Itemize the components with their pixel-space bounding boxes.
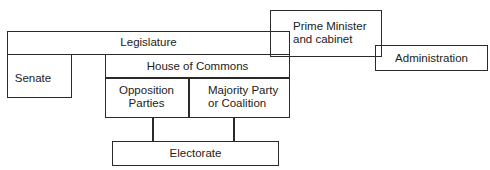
prime-minister-label-2: and cabinet: [293, 33, 352, 46]
administration-label: Administration: [375, 52, 488, 65]
connector-majority-electorate: [233, 118, 235, 142]
party-divider: [188, 77, 190, 118]
majority-label-2: or Coalition: [208, 97, 266, 110]
legislature-label: Legislature: [7, 36, 290, 49]
opposition-label-1: Opposition: [105, 84, 188, 97]
opposition-label-2: Parties: [105, 97, 188, 110]
electorate-label: Electorate: [112, 147, 279, 160]
commons-divider: [105, 77, 290, 79]
prime-minister-label-1: Prime Minister: [293, 20, 366, 33]
house-of-commons-label: House of Commons: [105, 60, 290, 73]
connector-opposition-electorate: [152, 118, 154, 142]
senate-label: Senate: [7, 72, 59, 85]
majority-label-1: Majority Party: [208, 84, 278, 97]
